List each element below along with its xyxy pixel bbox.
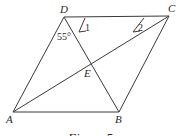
angle-1-label: 1: [85, 22, 90, 33]
figure-caption: Figure 5: [67, 130, 113, 136]
angle-55-label: 55°: [57, 31, 71, 42]
geometry-diagram: D C A B E 55° 1 2 Figure 5: [0, 0, 180, 136]
segment-CD: [64, 16, 169, 17]
vertex-label-C: C: [168, 2, 176, 14]
point-label-E: E: [83, 67, 91, 79]
vertex-label-A: A: [5, 113, 13, 125]
vertex-label-D: D: [59, 3, 68, 15]
vertex-label-B: B: [115, 113, 122, 125]
segment-BC: [119, 16, 169, 112]
angle-2-label: 2: [138, 22, 143, 33]
diagonal-BD: [64, 17, 119, 112]
